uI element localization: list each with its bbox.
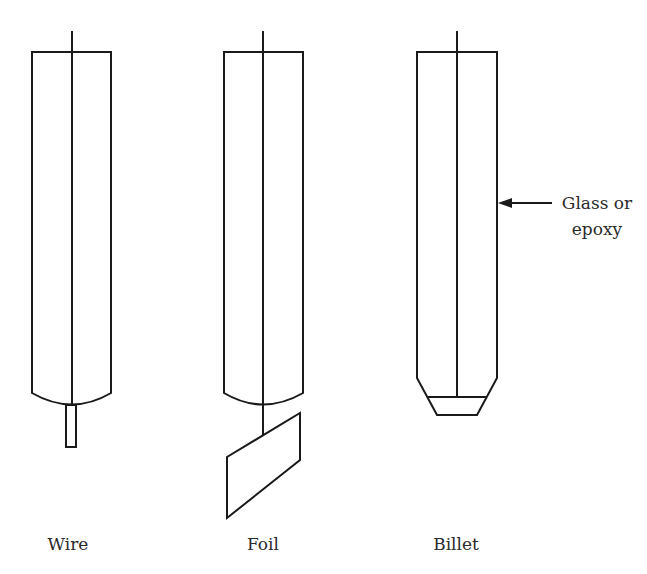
foil-electrode [224, 31, 303, 518]
label-billet: Billet [433, 534, 479, 554]
annotation-line-2: epoxy [572, 219, 623, 239]
glass-epoxy-callout: Glass or epoxy [498, 193, 633, 239]
arrow-head-icon [498, 198, 512, 208]
electrode-diagram: Glass or epoxy Wire Foil Billet [0, 0, 647, 574]
annotation-line-1: Glass or [562, 193, 633, 213]
wire-exposed-tip [66, 405, 76, 447]
billet-electrode [417, 31, 497, 415]
label-foil: Foil [247, 534, 279, 554]
label-wire: Wire [48, 534, 89, 554]
wire-electrode [32, 31, 111, 447]
